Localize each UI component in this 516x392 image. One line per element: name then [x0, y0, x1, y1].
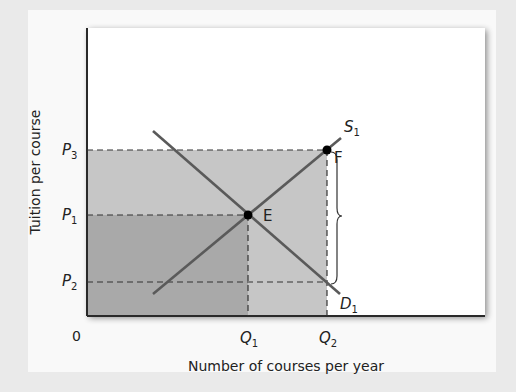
x-axis-title: Number of courses per year: [188, 358, 384, 374]
origin-label: 0: [72, 328, 81, 344]
equilibrium-point: [244, 211, 253, 220]
point-f: [323, 146, 332, 155]
dark-shaded-region: [87, 215, 248, 316]
q1-label: Q1: [240, 329, 258, 349]
y-axis-title: Tuition per course: [27, 110, 43, 236]
p3-label: P3: [62, 141, 77, 161]
supply-demand-diagram: E F S1 D1 P3 P1 P2 Q1 Q2 0 Number of cou…: [0, 0, 516, 392]
p1-label: P1: [62, 206, 77, 226]
point-f-label: F: [334, 149, 343, 167]
point-e-label: E: [263, 207, 272, 225]
p2-label: P2: [62, 272, 77, 292]
q2-label: Q2: [319, 329, 337, 349]
